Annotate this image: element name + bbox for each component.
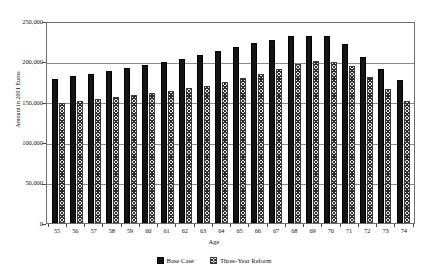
- bar-group: [140, 23, 158, 223]
- bar-three-year-reform: [149, 93, 155, 223]
- x-tick-label: 57: [85, 227, 103, 235]
- bar-three-year-reform: [131, 95, 137, 223]
- bar-base-case: [106, 71, 112, 223]
- bar-group: [85, 23, 103, 223]
- bar-group: [103, 23, 121, 223]
- x-tick-label: 56: [66, 227, 84, 235]
- legend-item: Three-Year Reform: [210, 257, 272, 264]
- bar-three-year-reform: [385, 89, 391, 223]
- bar-base-case: [88, 74, 94, 223]
- x-tick-label: 73: [377, 227, 395, 235]
- plot-area: [46, 22, 415, 224]
- bar-three-year-reform: [186, 88, 192, 223]
- bar-three-year-reform: [113, 97, 119, 223]
- bar-base-case: [179, 59, 185, 223]
- x-tick-label: 71: [340, 227, 358, 235]
- bar-base-case: [215, 51, 221, 223]
- x-tick-label: 55: [48, 227, 66, 235]
- bar-three-year-reform: [222, 82, 228, 223]
- x-tick-label: 69: [304, 227, 322, 235]
- x-tick-label: 63: [194, 227, 212, 235]
- y-axis-title: Amount in 2001 Euros: [14, 35, 21, 165]
- bar-three-year-reform: [95, 99, 101, 223]
- x-tick-label: 74: [395, 227, 413, 235]
- legend-swatch-base-case: [157, 257, 164, 264]
- bar-group: [285, 23, 303, 223]
- bar-group: [67, 23, 85, 223]
- bar-base-case: [52, 79, 58, 223]
- bar-three-year-reform: [367, 77, 373, 223]
- legend-item: Base Case: [157, 257, 194, 264]
- bar-three-year-reform: [77, 101, 83, 223]
- bar-three-year-reform: [331, 62, 337, 223]
- bar-base-case: [269, 40, 275, 223]
- bar-base-case: [251, 43, 257, 223]
- bar-base-case: [288, 36, 294, 223]
- legend-label: Base Case: [167, 257, 194, 264]
- bar-base-case: [360, 57, 366, 223]
- y-tick-label: 250,000: [22, 19, 43, 25]
- x-tick-label: 65: [231, 227, 249, 235]
- bar-group: [212, 23, 230, 223]
- bar-base-case: [378, 69, 384, 223]
- x-tick-label: 61: [158, 227, 176, 235]
- y-tick-label: 50,000: [25, 180, 43, 186]
- bar-group: [340, 23, 358, 223]
- y-tick-label: 200,000: [22, 59, 43, 65]
- bar-base-case: [397, 80, 403, 223]
- legend-swatch-three-year-reform: [210, 257, 217, 264]
- x-axis-labels: 5556575859606162636465666768697071727374: [46, 227, 415, 235]
- bar-group: [158, 23, 176, 223]
- bar-three-year-reform: [295, 64, 301, 223]
- bar-group: [321, 23, 339, 223]
- bar-base-case: [197, 55, 203, 223]
- bar-base-case: [70, 76, 76, 223]
- bar-group: [303, 23, 321, 223]
- bar-group: [176, 23, 194, 223]
- bar-base-case: [233, 47, 239, 223]
- bar-three-year-reform: [258, 74, 264, 223]
- bar-three-year-reform: [168, 91, 174, 224]
- y-tick-label: 100,000: [22, 140, 43, 146]
- bar-three-year-reform: [404, 101, 410, 223]
- y-tick-label: 150,000: [22, 100, 43, 106]
- bar-base-case: [306, 36, 312, 223]
- x-tick-label: 62: [176, 227, 194, 235]
- x-tick-label: 68: [285, 227, 303, 235]
- x-tick-label: 67: [267, 227, 285, 235]
- bar-base-case: [142, 65, 148, 223]
- bar-group: [49, 23, 67, 223]
- x-tick-label: 59: [121, 227, 139, 235]
- chart-legend: Base CaseThree-Year Reform: [0, 257, 428, 264]
- x-tick-label: 64: [212, 227, 230, 235]
- bar-group: [267, 23, 285, 223]
- bar-three-year-reform: [204, 86, 210, 223]
- bar-group: [394, 23, 412, 223]
- bar-three-year-reform: [313, 61, 319, 223]
- y-axis: Amount in 2001 Euros 250,000200,000150,0…: [0, 0, 43, 278]
- bar-chart: Amount in 2001 Euros 250,000200,000150,0…: [0, 0, 428, 278]
- bar-three-year-reform: [349, 66, 355, 223]
- x-tick-label: 70: [322, 227, 340, 235]
- x-tick-label: 66: [249, 227, 267, 235]
- bar-base-case: [124, 68, 130, 223]
- x-axis-title: Age: [0, 238, 428, 245]
- bar-base-case: [324, 36, 330, 223]
- bar-three-year-reform: [59, 103, 65, 223]
- bar-base-case: [161, 62, 167, 223]
- bar-group: [249, 23, 267, 223]
- bar-group: [231, 23, 249, 223]
- bars-layer: [47, 23, 414, 223]
- x-tick-label: 72: [358, 227, 376, 235]
- x-tick-label: 58: [103, 227, 121, 235]
- bar-base-case: [342, 44, 348, 223]
- bar-group: [194, 23, 212, 223]
- legend-label: Three-Year Reform: [220, 257, 272, 264]
- bar-group: [122, 23, 140, 223]
- bar-three-year-reform: [276, 69, 282, 223]
- bar-group: [358, 23, 376, 223]
- bar-three-year-reform: [240, 78, 246, 223]
- bar-group: [376, 23, 394, 223]
- x-tick-label: 60: [139, 227, 157, 235]
